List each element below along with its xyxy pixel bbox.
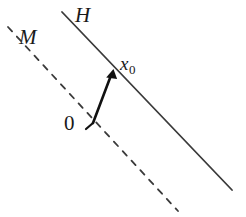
vector-x0 <box>93 69 117 123</box>
origin-tick-mark <box>86 123 93 129</box>
label-point-x0-base: x <box>120 53 128 74</box>
label-origin-0: 0 <box>64 113 75 134</box>
hyperplane-line-H <box>62 12 232 190</box>
figure-container: H M x0 0 <box>0 0 246 217</box>
vector-x0-arrowhead <box>106 69 117 79</box>
label-subspace-M: M <box>19 27 37 48</box>
subspace-line-M <box>8 27 178 211</box>
vector-x0-shaft <box>93 74 112 123</box>
label-point-x0: x0 <box>120 54 135 76</box>
label-hyperplane-H: H <box>75 5 90 26</box>
label-point-x0-subscript: 0 <box>129 62 136 77</box>
